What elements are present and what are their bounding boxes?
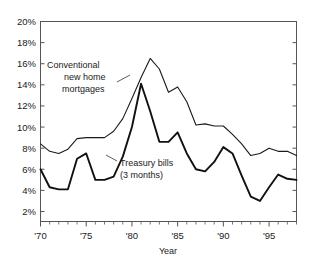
- annotation-line-1: Conventional: [47, 60, 100, 70]
- annotation-line-1: Treasury bills: [120, 158, 174, 168]
- y-axis-tick-label: 12%: [17, 100, 37, 111]
- x-axis-tick-label: '80: [126, 230, 138, 241]
- x-axis-tick-label: '75: [80, 230, 92, 241]
- y-axis-tick-label: 4%: [22, 185, 36, 196]
- annotation-line-3: mortgages: [62, 84, 105, 94]
- x-axis-tick-label: '90: [217, 230, 229, 241]
- y-axis-tick-label: 6%: [22, 164, 36, 175]
- x-axis-tick-label: '85: [171, 230, 183, 241]
- x-axis-tick-label: '95: [263, 230, 275, 241]
- annotation-line-2: (3 months): [120, 170, 163, 180]
- x-axis-title: Year: [159, 246, 177, 256]
- y-axis-tick-label: 20%: [17, 16, 37, 27]
- y-axis-tick-label: 16%: [17, 58, 37, 69]
- interest-rates-line-chart: 2%4%6%8%10%12%14%16%18%20% '70'75'80'85'…: [0, 0, 314, 261]
- y-axis-tick-label: 2%: [22, 206, 36, 217]
- annotation-line-2: new home: [64, 72, 106, 82]
- y-axis-tick-label: 10%: [17, 122, 37, 133]
- y-axis-tick-label: 14%: [17, 79, 37, 90]
- chart-container: 2%4%6%8%10%12%14%16%18%20% '70'75'80'85'…: [0, 0, 314, 261]
- x-axis-tick-label: '70: [34, 230, 46, 241]
- y-axis-tick-label: 8%: [22, 143, 36, 154]
- y-axis-tick-label: 18%: [17, 37, 37, 48]
